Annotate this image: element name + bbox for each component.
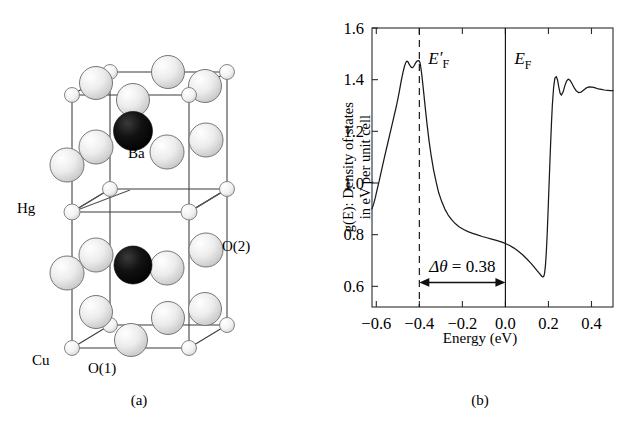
label-hg: Hg xyxy=(17,200,35,217)
x-tick-label: −0.6 xyxy=(361,314,391,333)
delta-theta-label: Δθ = 0.38 xyxy=(428,257,495,276)
atom-o2 xyxy=(80,67,113,100)
atom-o2 xyxy=(150,135,184,169)
hg-bonds xyxy=(72,189,227,212)
label-cu: Cu xyxy=(32,352,50,369)
atom-o2 xyxy=(189,123,223,157)
x-axis-title: Energy (eV) xyxy=(390,330,570,347)
atom-cu xyxy=(65,88,80,103)
ef-prime-label: E′F xyxy=(427,48,449,71)
atom-o2 xyxy=(80,296,113,329)
panel-a-crystal-structure: Ba Hg O(2) Cu O(1) (a) xyxy=(0,0,318,436)
label-o1: O(1) xyxy=(88,360,116,377)
y-tick-label: 1.2 xyxy=(343,122,364,141)
delta-theta-arrow-left xyxy=(419,278,429,287)
atom-o2 xyxy=(189,293,222,326)
atom-hg xyxy=(181,204,197,220)
x-tick-label: 0.4 xyxy=(581,314,602,333)
atom-o2 xyxy=(50,148,84,182)
caption-panel-a: (a) xyxy=(109,392,169,409)
atom-o1-big xyxy=(115,324,148,357)
atom-o2 xyxy=(79,238,113,272)
atom-o2 xyxy=(189,233,223,267)
atom-o2 xyxy=(150,251,184,285)
figure-root: Ba Hg O(2) Cu O(1) (a) g(E): Density of … xyxy=(0,0,640,436)
atom-o1 xyxy=(103,182,118,197)
atom-cu xyxy=(182,88,197,103)
atom-ba xyxy=(114,246,152,284)
caption-panel-b: (b) xyxy=(450,392,510,409)
atom-o1 xyxy=(220,65,235,80)
y-tick-label: 1.0 xyxy=(343,174,364,193)
y-tick-label: 0.6 xyxy=(343,277,364,296)
atom-o2 xyxy=(79,130,113,164)
label-ba: Ba xyxy=(128,145,145,162)
crystal-structure-svg xyxy=(0,0,318,436)
dos-curve xyxy=(372,61,613,277)
atom-cu xyxy=(182,341,197,356)
atom-o2 xyxy=(152,302,185,335)
ef-label: EF xyxy=(513,49,531,72)
atom-o2 xyxy=(152,56,185,89)
y-tick-label: 1.6 xyxy=(343,19,364,38)
delta-theta-arrow-right xyxy=(495,278,505,287)
atom-o1 xyxy=(220,318,235,333)
atom-cu xyxy=(65,341,80,356)
panel-b-dos-chart: g(E): Density of states in eV per unit c… xyxy=(318,0,640,436)
atom-o2 xyxy=(50,256,84,290)
dos-chart-svg: −0.6−0.4−0.20.00.20.40.60.81.01.21.41.6E… xyxy=(318,0,640,436)
label-o2: O(2) xyxy=(222,238,250,255)
y-tick-label: 1.4 xyxy=(343,70,364,89)
atom-o1 xyxy=(220,182,235,197)
atom-hg xyxy=(64,204,80,220)
y-tick-label: 0.8 xyxy=(343,225,364,244)
